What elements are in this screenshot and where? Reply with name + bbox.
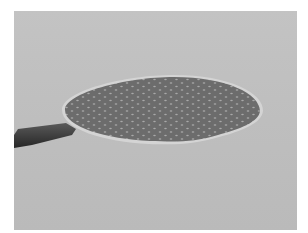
photograph [14,11,297,230]
paddle-illustration [14,11,297,230]
handle [14,123,76,148]
perforated-disc [62,75,263,144]
